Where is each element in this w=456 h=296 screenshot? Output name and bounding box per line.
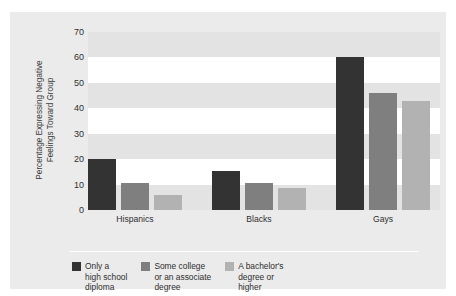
chart-figure: Percentage Expressing Negative Feelings … [0,0,456,296]
y-axis-tick-label: 50 [74,78,84,88]
chart-legend: Only a high school diplomaSome college o… [72,261,422,296]
legend-swatch [225,262,234,271]
legend-item[interactable]: Only a high school diploma [72,261,127,293]
y-axis-tick-label: 0 [79,205,84,215]
bar[interactable] [154,195,182,210]
y-axis-title-text: Percentage Expressing Negative Feelings … [34,60,56,179]
bar-groups [88,32,440,210]
legend-item[interactable]: Some college or an associate degree [141,261,211,293]
y-axis-tick-label: 30 [74,129,84,139]
legend-swatch [141,262,150,271]
y-axis-title-line-2: Feelings Toward Group [46,78,55,163]
bar-group [336,32,440,210]
bar-group [88,32,192,210]
x-axis-tick-label: Hispanics [116,214,153,224]
x-axis-tick-label: Blacks [246,214,271,224]
plot-area [88,32,440,210]
chart-panel: Percentage Expressing Negative Feelings … [10,12,446,289]
legend-item[interactable]: A bachelor's degree or higher [225,261,283,293]
bar[interactable] [121,183,149,210]
legend-label: Only a high school diploma [85,261,127,293]
y-axis-tick-label: 10 [74,180,84,190]
y-axis-title: Percentage Expressing Negative Feelings … [32,30,58,210]
bar-group [212,32,316,210]
y-axis-tick-label: 40 [74,103,84,113]
y-axis-tick-label: 20 [74,154,84,164]
legend-divider [70,251,418,252]
bar[interactable] [278,188,306,210]
bar[interactable] [245,183,273,210]
clipped-page-title [0,0,456,3]
y-axis-tick-label: 70 [74,27,84,37]
bar[interactable] [336,57,364,210]
legend-label: Some college or an associate degree [154,261,211,293]
bar[interactable] [402,101,430,210]
bar[interactable] [88,159,116,210]
bar[interactable] [369,93,397,210]
y-axis-tick-labels: 010203040506070 [62,32,84,210]
y-axis-tick-label: 60 [74,52,84,62]
legend-label: A bachelor's degree or higher [238,261,283,293]
legend-swatch [72,262,81,271]
y-axis-title-line-1: Percentage Expressing Negative [35,60,44,179]
x-axis-tick-labels: HispanicsBlacksGays [88,214,440,228]
bar[interactable] [212,171,240,210]
x-axis-tick-label: Gays [373,214,393,224]
